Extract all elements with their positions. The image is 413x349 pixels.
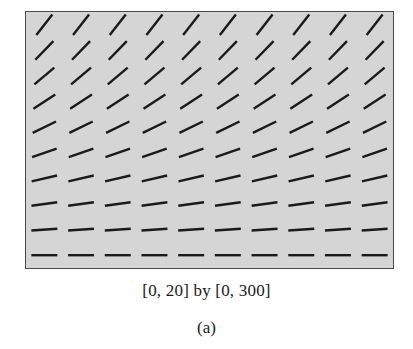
slope-mark [143,122,166,133]
slope-mark [362,229,388,231]
slope-mark [289,149,314,157]
slope-mark [142,175,167,181]
slope-mark [252,229,278,231]
slope-mark [291,68,311,85]
slope-mark [256,41,274,60]
slope-mark [362,202,388,206]
slope-mark [327,95,349,109]
slope-mark [255,68,275,85]
slope-mark [254,95,276,109]
slope-mark [215,202,241,206]
slope-mark [71,68,91,85]
slope-mark [183,15,199,35]
slope-mark [215,175,240,181]
slope-mark [35,41,53,60]
slope-mark [288,202,314,206]
slope-mark [325,229,351,231]
slope-mark [325,175,350,181]
slope-mark [105,175,130,181]
axis-range-caption: [0, 20] by [0, 300] [0,281,413,301]
slope-mark [68,202,94,206]
slope-mark [362,149,387,157]
slope-mark [367,15,383,35]
slope-mark [178,202,204,206]
slope-field-figure: [0, 20] by [0, 300] (a) [0,0,413,349]
slope-mark [181,68,201,85]
slope-mark [145,41,163,60]
slope-mark [68,175,93,181]
slope-mark [142,149,167,157]
slope-mark [144,68,164,85]
slope-mark [366,41,384,60]
slope-mark [34,68,54,85]
slope-mark [216,149,241,157]
panel-label: (a) [0,318,413,338]
slope-mark [68,229,94,231]
slope-mark [252,149,277,157]
slope-mark [141,229,167,231]
slope-mark [220,15,236,35]
slope-mark [219,41,237,60]
slope-mark [365,68,385,85]
slope-mark [105,149,130,157]
slope-mark [105,202,131,206]
slope-mark [33,122,56,133]
slope-mark [328,68,348,85]
slope-mark [108,68,128,85]
slope-mark [106,122,129,133]
slope-mark [252,175,277,181]
slope-mark [362,175,387,181]
slope-mark [290,122,313,133]
slope-mark [69,122,92,133]
slope-field-marks [26,12,393,268]
slope-mark [326,149,351,157]
slope-mark [107,95,129,109]
slope-mark [182,41,200,60]
slope-mark [144,95,166,109]
slope-mark [32,149,57,157]
slope-mark [290,95,312,109]
slope-mark [253,122,276,133]
slope-mark [31,202,57,206]
slope-mark [110,15,126,35]
slope-mark [325,202,351,206]
slope-mark [217,95,239,109]
slope-mark [180,95,202,109]
slope-mark [36,15,52,35]
slope-mark [330,15,346,35]
slope-mark [252,202,278,206]
slope-mark [218,68,238,85]
slope-mark [178,175,203,181]
slope-mark [178,229,204,231]
slope-mark [329,41,347,60]
slope-mark [215,229,241,231]
slope-mark [72,41,90,60]
slope-mark [31,229,57,231]
slope-mark [364,95,386,109]
slope-mark [179,122,202,133]
slope-mark [288,229,314,231]
slope-mark [146,15,162,35]
slope-mark [142,202,168,206]
slope-mark [257,15,273,35]
slope-mark [292,41,310,60]
slope-mark [179,149,204,157]
slope-mark [73,15,89,35]
plot-area [25,11,394,269]
slope-mark [105,229,131,231]
slope-mark [326,122,349,133]
slope-mark [109,41,127,60]
slope-mark [70,95,92,109]
slope-mark [363,122,386,133]
slope-mark [32,175,57,181]
slope-mark [216,122,239,133]
slope-mark [69,149,94,157]
slope-mark [289,175,314,181]
slope-mark [33,95,55,109]
slope-mark [293,15,309,35]
